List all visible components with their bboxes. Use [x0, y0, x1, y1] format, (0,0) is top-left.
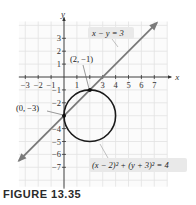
y-tick-label: 1 [57, 59, 61, 69]
equation-label-circle: (x − 2)² + (y + 3)² = 4 [92, 160, 169, 170]
x-tick-label: 7 [152, 80, 156, 90]
y-axis-label: y [60, 9, 65, 19]
y-tick-label: −1 [52, 85, 61, 95]
x-tick-label: 4 [113, 80, 118, 90]
y-tick-label: −6 [52, 149, 61, 159]
x-tick-label: −2 [34, 80, 43, 90]
equation-label-line: x − y = 3 [91, 28, 124, 38]
y-tick-label: −2 [52, 98, 61, 108]
x-tick-label: −3 [21, 80, 30, 90]
intersection-point [62, 114, 66, 118]
intersection-point [88, 88, 92, 92]
figure-caption: FIGURE 13.35 [3, 188, 81, 200]
x-tick-label: 5 [126, 80, 130, 90]
x-axis-label: x [174, 72, 179, 82]
x-tick-label: 3 [101, 80, 105, 90]
y-tick-label: 3 [57, 33, 61, 43]
x-tick-label: 6 [139, 80, 143, 90]
y-tick-label: −5 [52, 137, 61, 147]
point-label-0-neg3: (0, −3) [16, 103, 39, 113]
y-tick-label: 2 [57, 46, 61, 56]
figure-graph: xy −3−2−1134567321−1−2−4−5−6−7 (2, −1)(0… [0, 0, 196, 205]
point-label-2-neg1: (2, −1) [70, 54, 93, 64]
y-tick-label: −7 [52, 162, 61, 172]
x-tick-label: 1 [75, 80, 79, 90]
